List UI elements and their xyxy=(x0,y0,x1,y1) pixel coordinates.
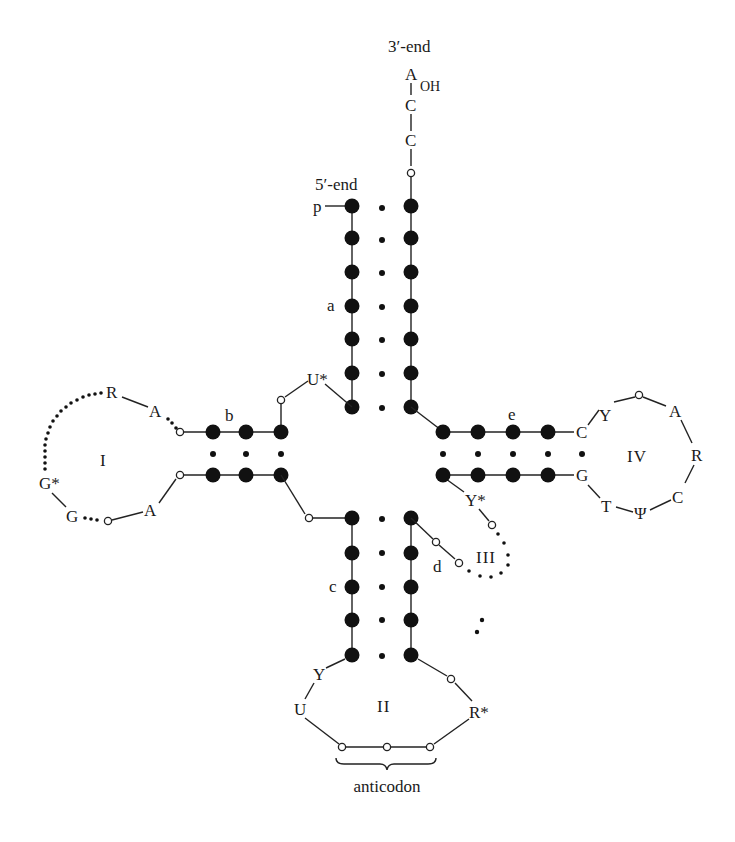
loop-IV-A: A xyxy=(669,402,682,421)
anticodon-nucleotide-3 xyxy=(426,743,433,750)
loop-I-G-star: G* xyxy=(39,474,60,493)
acceptor-arm: 3′-end A OH C C 5′-end p a xyxy=(313,37,440,415)
anticodon-brace xyxy=(336,758,436,770)
loop-IV-T: T xyxy=(601,497,612,516)
junction: U* xyxy=(277,370,352,426)
trna-cloverleaf-diagram: 3′-end A OH C C 5′-end p a U* xyxy=(0,0,735,842)
loop-I-dotted-segment xyxy=(43,391,103,471)
connector-nucleotide xyxy=(305,514,312,521)
stem-label-d: d xyxy=(433,557,442,576)
loop-label-II: II xyxy=(377,697,390,716)
anticodon-arm: c Y U R* II anticodon xyxy=(294,511,489,797)
acceptor-stem-pairs xyxy=(345,199,419,415)
loop-IV-C: C xyxy=(672,488,683,507)
loop-label-I: I xyxy=(100,451,107,470)
loop-label-III: III xyxy=(476,548,496,567)
cca-C1: C xyxy=(405,96,416,115)
loop-I-G: G xyxy=(66,507,78,526)
anticodon-label: anticodon xyxy=(353,777,421,796)
connector-nucleotide xyxy=(277,396,284,403)
stem-label-c: c xyxy=(329,577,337,596)
loop-II-Y: Y xyxy=(313,665,325,684)
five-end-label: 5′-end xyxy=(315,175,358,194)
loop-IV-R: R xyxy=(691,446,703,465)
anticodon-nucleotide-2 xyxy=(383,743,390,750)
stem-label-a: a xyxy=(327,296,335,315)
three-end-label: 3′-end xyxy=(388,37,431,56)
terminal-A: A xyxy=(405,65,418,84)
terminal-OH: OH xyxy=(420,79,440,94)
stem-label-b: b xyxy=(225,406,234,425)
t-arm: C G e Y A R C Ψ T IV xyxy=(411,391,703,523)
loop-IV-Y: Y xyxy=(599,406,611,425)
loop-II-U: U xyxy=(294,700,306,719)
variable-Y-star: Y* xyxy=(465,491,486,510)
phosphate-label: p xyxy=(313,197,322,216)
loop-I-R: R xyxy=(106,383,118,402)
stem-label-e: e xyxy=(508,405,516,424)
loop-IV-Psi: Ψ xyxy=(634,504,647,523)
loop-II-R-star: R* xyxy=(469,703,489,722)
t-stem-C: C xyxy=(576,423,587,442)
U-star: U* xyxy=(307,370,328,389)
variable-arm: d Y* III xyxy=(411,479,510,634)
loop-label-IV: IV xyxy=(627,447,647,466)
loop-I-A-bottom: A xyxy=(144,501,157,520)
t-stem-G: G xyxy=(576,466,588,485)
anticodon-nucleotide-1 xyxy=(338,743,345,750)
cca-C2: C xyxy=(405,131,416,150)
d-arm: b A R G* G A I xyxy=(39,383,289,526)
unpaired-nucleotide xyxy=(407,169,414,176)
loop-I-A-top: A xyxy=(149,402,162,421)
